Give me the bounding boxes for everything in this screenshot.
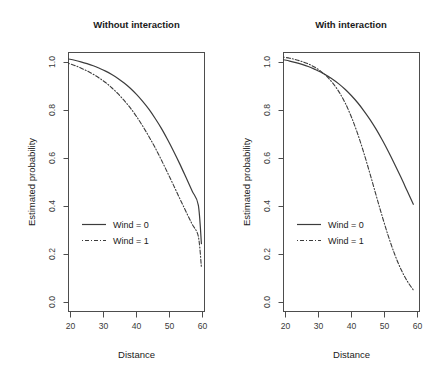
legend-left: Wind = 0 Wind = 1: [82, 220, 149, 246]
curve-wind-0-left: [69, 59, 202, 244]
y-tick-label: 0.0: [47, 296, 57, 308]
y-tick-label: 1.0: [47, 56, 57, 68]
legend-label-wind-0: Wind = 0: [328, 220, 364, 230]
y-tick-label: 0.6: [262, 152, 272, 164]
x-tick-label: 40: [347, 321, 357, 331]
x-axis-tick-labels-right: 20 30 40 50 60: [281, 321, 423, 331]
two-panel-probability-figure: Without interaction 0.0 0.2 0.4 0.6 0.8 …: [0, 0, 442, 380]
plot-frame-right: [284, 53, 420, 312]
x-tick-label: 20: [281, 321, 291, 331]
y-tick-label: 0.2: [47, 248, 57, 260]
plot-frame-left: [69, 53, 205, 312]
x-tick-label: 30: [99, 321, 109, 331]
y-tick-label: 1.0: [262, 56, 272, 68]
y-axis-label-right: Estimated probability: [241, 138, 252, 226]
x-tick-label: 20: [66, 321, 76, 331]
legend-label-wind-0: Wind = 0: [113, 220, 149, 230]
y-tick-label: 0.4: [262, 200, 272, 212]
x-tick-label: 50: [380, 321, 390, 331]
y-tick-label: 0.0: [262, 296, 272, 308]
legend-right: Wind = 0 Wind = 1: [297, 220, 364, 246]
x-tick-label: 40: [132, 321, 142, 331]
curve-wind-0-right: [284, 60, 414, 205]
panel-title-with-interaction: With interaction: [315, 19, 387, 30]
x-tick-label: 60: [198, 321, 208, 331]
y-axis-tick-labels-right: 0.0 0.2 0.4 0.6 0.8 1.0: [262, 56, 272, 308]
y-axis-label-left: Estimated probability: [26, 138, 37, 226]
y-tick-label: 0.6: [47, 152, 57, 164]
y-tick-label: 0.2: [262, 248, 272, 260]
x-tick-label: 50: [165, 321, 175, 331]
x-axis-ticks-right: [286, 312, 418, 318]
y-axis-ticks-left: [64, 63, 69, 303]
legend-label-wind-1: Wind = 1: [328, 236, 364, 246]
panel-title-without-interaction: Without interaction: [93, 19, 180, 30]
y-tick-label: 0.4: [47, 200, 57, 212]
y-tick-label: 0.8: [47, 104, 57, 116]
y-tick-label: 0.8: [262, 104, 272, 116]
x-tick-label: 30: [314, 321, 324, 331]
panel-without-interaction: Without interaction 0.0 0.2 0.4 0.6 0.8 …: [26, 19, 207, 360]
legend-label-wind-1: Wind = 1: [113, 236, 149, 246]
y-axis-tick-labels-left: 0.0 0.2 0.4 0.6 0.8 1.0: [47, 56, 57, 308]
panel-with-interaction: With interaction 0.0 0.2 0.4 0.6 0.8 1.0: [241, 19, 422, 360]
x-axis-tick-labels-left: 20 30 40 50 60: [66, 321, 208, 331]
x-axis-label-left: Distance: [118, 349, 155, 360]
x-axis-label-right: Distance: [333, 349, 370, 360]
x-tick-label: 60: [413, 321, 423, 331]
x-axis-ticks-left: [71, 312, 203, 318]
y-axis-ticks-right: [279, 63, 284, 303]
